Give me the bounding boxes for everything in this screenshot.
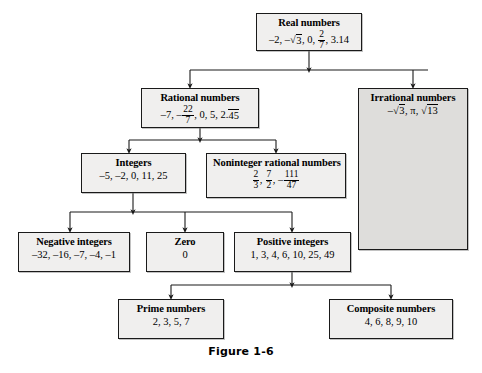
rational-fraction: 227 — [182, 105, 194, 125]
node-real-numbers[interactable]: Real numbers –2, –√3, 0, 27, 3.14 — [256, 13, 362, 51]
noninteger-f2-den: 2 — [266, 181, 273, 191]
noninteger-fraction-3: 11147 — [284, 170, 300, 190]
node-real-numbers-title: Real numbers — [263, 17, 355, 29]
node-rational-numbers-title: Rational numbers — [148, 92, 252, 104]
noninteger-fraction-2: 72 — [266, 170, 273, 190]
node-composite-numbers-title: Composite numbers — [336, 303, 446, 315]
node-positive-integers-examples: 1, 3, 4, 6, 10, 25, 49 — [241, 249, 344, 261]
irrational-sqrt-2: 13 — [427, 104, 439, 116]
node-noninteger-rational-numbers-examples: 23, 72, –11147 — [213, 170, 339, 190]
node-prime-numbers-examples: 2, 3, 5, 7 — [125, 316, 217, 328]
noninteger-fraction-1: 23 — [253, 170, 260, 190]
node-positive-integers-title: Positive integers — [241, 236, 344, 248]
figure-caption: Figure 1-6 — [0, 345, 482, 358]
noninteger-sep-1: , — [260, 175, 265, 186]
node-negative-integers[interactable]: Negative integers –32, –16, –7, –4, –1 — [18, 232, 130, 272]
node-integers-examples: –5, –2, 0, 11, 25 — [88, 170, 179, 182]
noninteger-f3-den: 47 — [284, 181, 300, 191]
node-prime-numbers[interactable]: Prime numbers 2, 3, 5, 7 — [118, 299, 224, 339]
node-integers-title: Integers — [88, 157, 179, 169]
real-frac-den: 7 — [318, 41, 325, 51]
node-negative-integers-title: Negative integers — [25, 236, 123, 248]
real-after: , 3.14 — [325, 35, 349, 46]
rational-frac-den: 7 — [182, 116, 194, 126]
rational-repeating-digits: 45 — [228, 109, 239, 121]
node-irrational-numbers-title: Irrational numbers — [365, 92, 461, 104]
noninteger-f1-den: 3 — [253, 181, 260, 191]
noninteger-sep-2: , – — [273, 175, 284, 186]
node-integers[interactable]: Integers –5, –2, 0, 11, 25 — [81, 153, 186, 193]
node-negative-integers-examples: –32, –16, –7, –4, –1 — [25, 249, 123, 261]
real-middle: , 0, — [302, 35, 318, 46]
irrational-before: – — [388, 105, 393, 116]
node-rational-numbers[interactable]: Rational numbers –7, –227, 0, 5, 2.45 — [141, 88, 259, 128]
node-zero-title: Zero — [153, 236, 217, 248]
node-positive-integers[interactable]: Positive integers 1, 3, 4, 6, 10, 25, 49 — [234, 232, 351, 272]
figure-canvas: Real numbers –2, –√3, 0, 27, 3.14 Ration… — [0, 0, 482, 373]
irrational-middle: , π, — [405, 105, 421, 116]
node-prime-numbers-title: Prime numbers — [125, 303, 217, 315]
node-irrational-numbers[interactable]: Irrational numbers –√3, π, √13 — [358, 88, 468, 250]
node-composite-numbers[interactable]: Composite numbers 4, 6, 8, 9, 10 — [329, 299, 453, 339]
rational-before: –7, – — [161, 110, 182, 121]
node-rational-numbers-examples: –7, –227, 0, 5, 2.45 — [148, 105, 252, 125]
node-zero[interactable]: Zero 0 — [146, 232, 224, 272]
rational-middle: , 0, 5, 2. — [194, 110, 228, 121]
node-irrational-numbers-examples: –√3, π, √13 — [365, 105, 461, 117]
node-zero-examples: 0 — [153, 249, 217, 261]
real-before: –2, – — [269, 35, 290, 46]
node-composite-numbers-examples: 4, 6, 8, 9, 10 — [336, 316, 446, 328]
node-real-numbers-examples: –2, –√3, 0, 27, 3.14 — [263, 30, 355, 50]
real-fraction: 27 — [318, 30, 325, 50]
node-noninteger-rational-numbers[interactable]: Noninteger rational numbers 23, 72, –111… — [206, 153, 346, 198]
node-noninteger-rational-numbers-title: Noninteger rational numbers — [213, 157, 339, 169]
